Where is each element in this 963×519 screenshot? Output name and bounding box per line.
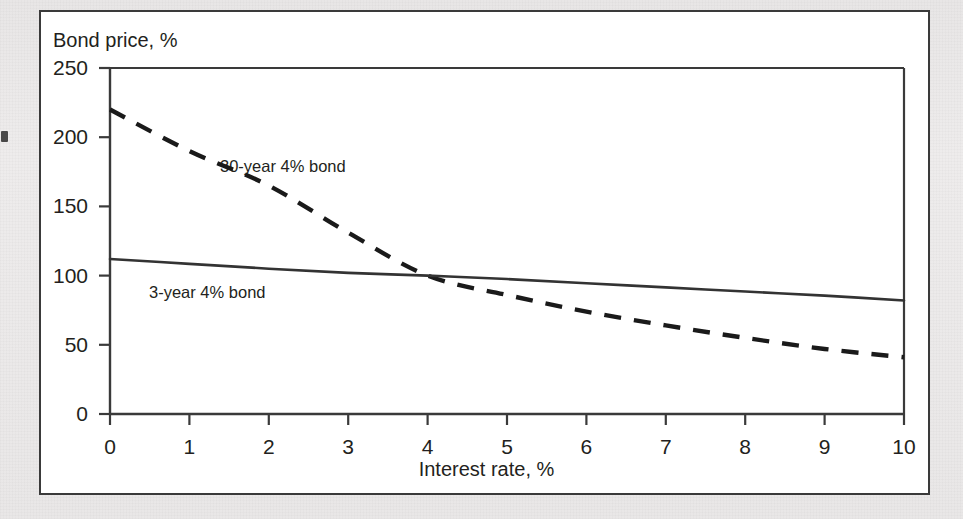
axes-group: [110, 68, 904, 414]
y-tick-label: 150: [30, 195, 88, 216]
series-line-2: [110, 259, 904, 301]
x-tick-label: 10: [884, 436, 924, 457]
x-tick-label: 3: [328, 436, 368, 457]
y-tick-label: 0: [30, 403, 88, 424]
series-line-1: [110, 110, 904, 358]
x-tick-label: 9: [805, 436, 845, 457]
x-tick-label: 5: [487, 436, 527, 457]
series-paths: [110, 110, 904, 358]
x-tick-label: 4: [408, 436, 448, 457]
plot-area: [41, 12, 932, 497]
y-tick-label: 50: [30, 334, 88, 355]
x-tick-label: 2: [249, 436, 289, 457]
figure-inner: Bond price, % Interest rate, % 30-year 4…: [41, 12, 928, 493]
y-tick-label: 100: [30, 265, 88, 286]
x-tick-label: 1: [169, 436, 209, 457]
x-tick-label: 0: [90, 436, 130, 457]
y-tick-label: 200: [30, 126, 88, 147]
figure-frame: Bond price, % Interest rate, % 30-year 4…: [39, 10, 930, 495]
y-tick-label: 250: [30, 57, 88, 78]
x-tick-label: 7: [646, 436, 686, 457]
x-tick-label: 8: [725, 436, 765, 457]
page-text-fragment: [1, 131, 8, 142]
x-tick-label: 6: [566, 436, 606, 457]
x-tick-marks: [110, 414, 904, 425]
y-tick-marks: [99, 68, 110, 414]
